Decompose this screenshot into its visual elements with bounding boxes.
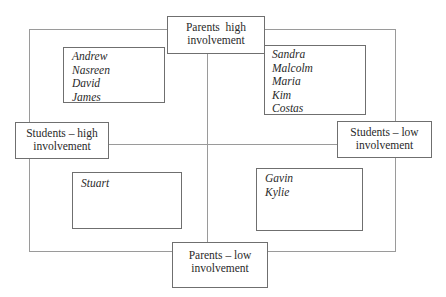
quadrant-top-right: Sandra Malcolm Maria Kim Costas [264, 45, 366, 115]
quadrant-top-left: Andrew Nasreen David James [63, 47, 165, 103]
student-name: James [72, 91, 164, 105]
student-name: Nasreen [72, 64, 164, 78]
axis-label-line: Students – low [338, 126, 431, 139]
student-name: Sandra [272, 48, 365, 62]
axis-label-line: involvement [168, 34, 264, 47]
axis-label-line: involvement [16, 140, 108, 153]
student-name: Costas [272, 102, 365, 116]
student-name: Gavin [265, 172, 362, 186]
axis-label-students-high: Students – high involvement [15, 122, 109, 159]
axis-label-line: Students – high [16, 127, 108, 140]
axis-label-line: involvement [338, 139, 431, 152]
axis-label-line: Parents high [168, 21, 264, 34]
axis-label-line: involvement [173, 262, 267, 275]
quadrant-bottom-right: Gavin Kylie [256, 168, 363, 231]
student-name: Kylie [265, 186, 362, 200]
student-name: Andrew [72, 50, 164, 64]
axis-label-line: Parents – low [173, 249, 267, 262]
quadrant-bottom-left: Stuart [72, 172, 182, 229]
student-name: Kim [272, 89, 365, 103]
student-name: David [72, 77, 164, 91]
student-name: Maria [272, 75, 365, 89]
student-name: Malcolm [272, 62, 365, 76]
axis-label-parents-low: Parents – low involvement [172, 242, 268, 288]
axis-label-students-low: Students – low involvement [337, 121, 432, 158]
student-name: Stuart [81, 177, 181, 191]
axis-label-parents-high: Parents high involvement [167, 16, 265, 54]
